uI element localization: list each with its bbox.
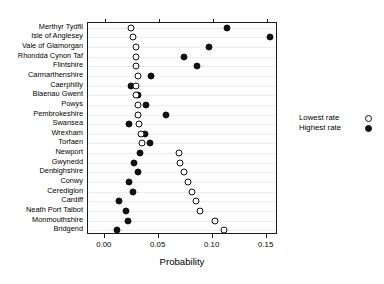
- x-axis-tick-label: 0.15: [258, 240, 273, 249]
- y-axis-tick-label: Torfaen: [58, 138, 83, 146]
- chart-root: Merthyr TydfilIsle of AngleseyVale of Gl…: [0, 0, 384, 284]
- y-axis-tick-label: Pembrokeshire: [33, 110, 83, 118]
- gridline: [88, 124, 276, 125]
- data-point-lowest-rate: [197, 207, 204, 214]
- data-point-lowest-rate: [133, 82, 140, 89]
- data-point-lowest-rate: [211, 217, 218, 224]
- data-point-lowest-rate: [138, 130, 145, 137]
- y-axis-tick-label: Blaenau Gwent: [32, 90, 83, 98]
- data-point-highest-rate: [162, 111, 169, 118]
- data-point-highest-rate: [124, 217, 131, 224]
- x-axis-title: Probability: [87, 256, 277, 267]
- data-point-lowest-rate: [132, 44, 139, 51]
- data-point-lowest-rate: [188, 188, 195, 195]
- gridline: [88, 192, 276, 193]
- y-axis-tick-label: Wrexham: [52, 129, 84, 137]
- data-point-lowest-rate: [134, 111, 141, 118]
- data-point-highest-rate: [130, 188, 137, 195]
- x-axis-tick-top: [105, 19, 106, 23]
- x-axis-tick: [104, 234, 105, 238]
- y-axis-tick-label: Vale of Glamorgan: [22, 42, 83, 50]
- data-point-highest-rate: [194, 63, 201, 70]
- data-point-highest-rate: [115, 198, 122, 205]
- y-axis-tick-label: Newport: [55, 148, 83, 156]
- plot-frame: [87, 22, 277, 234]
- data-point-lowest-rate: [134, 73, 141, 80]
- gridline: [88, 95, 276, 96]
- legend-label-highest-rate: Highest rate: [299, 123, 341, 132]
- data-point-highest-rate: [135, 169, 142, 176]
- data-point-lowest-rate: [133, 92, 140, 99]
- y-axis-tick-label: Caerphilly: [50, 81, 83, 89]
- y-axis-tick-label: Isle of Anglesey: [31, 32, 83, 40]
- gridline: [88, 47, 276, 48]
- filled-circle-icon: [365, 125, 372, 132]
- data-point-lowest-rate: [184, 179, 191, 186]
- y-axis-tick-label: Cardiff: [61, 196, 83, 204]
- gridline: [88, 115, 276, 116]
- data-point-lowest-rate: [138, 140, 145, 147]
- y-axis-tick-label: Merthyr Tydfil: [39, 23, 83, 31]
- gridline: [88, 105, 276, 106]
- gridline: [88, 221, 276, 222]
- gridline: [88, 86, 276, 87]
- gridline: [88, 211, 276, 212]
- data-point-highest-rate: [143, 101, 150, 108]
- x-axis-tick-label: 0.05: [150, 240, 165, 249]
- data-point-highest-rate: [113, 227, 120, 234]
- legend-item-lowest-rate: Lowest rate: [299, 113, 377, 123]
- y-axis-tick-label: Gwynedd: [52, 158, 83, 166]
- x-axis: 0.000.050.100.15: [87, 234, 277, 258]
- data-point-lowest-rate: [135, 121, 142, 128]
- legend-item-highest-rate: Highest rate: [299, 123, 377, 133]
- y-axis-tick-label: Powys: [61, 100, 83, 108]
- data-point-highest-rate: [122, 207, 129, 214]
- data-point-highest-rate: [147, 140, 154, 147]
- y-axis-labels: Merthyr TydfilIsle of AngleseyVale of Gl…: [0, 22, 83, 234]
- data-point-lowest-rate: [130, 34, 137, 41]
- gridline: [88, 76, 276, 77]
- data-point-lowest-rate: [128, 24, 135, 31]
- y-axis-tick-label: Flintshire: [53, 61, 83, 69]
- x-axis-tick: [212, 234, 213, 238]
- chart-legend: Lowest rate Highest rate: [299, 113, 377, 133]
- data-point-lowest-rate: [192, 198, 199, 205]
- data-point-highest-rate: [205, 44, 212, 51]
- data-point-lowest-rate: [132, 63, 139, 70]
- data-point-lowest-rate: [132, 53, 139, 60]
- plot-area: [88, 23, 276, 233]
- x-axis-tick: [266, 234, 267, 238]
- data-point-lowest-rate: [180, 169, 187, 176]
- data-point-highest-rate: [126, 121, 133, 128]
- y-axis-tick-label: Carmarthenshire: [28, 71, 83, 79]
- y-axis-tick-label: Swansea: [53, 119, 83, 127]
- data-point-highest-rate: [266, 34, 273, 41]
- y-axis-tick-label: Ceredigion: [47, 187, 83, 195]
- legend-label-lowest-rate: Lowest rate: [299, 113, 339, 122]
- x-axis-tick: [158, 234, 159, 238]
- data-point-highest-rate: [131, 159, 138, 166]
- gridline: [88, 28, 276, 29]
- y-axis-tick-label: Rhondda Cynon Taf: [18, 52, 83, 60]
- data-point-highest-rate: [137, 150, 144, 157]
- data-point-highest-rate: [180, 53, 187, 60]
- data-point-lowest-rate: [134, 101, 141, 108]
- y-axis-tick-label: Denbighshire: [39, 167, 83, 175]
- gridline: [88, 37, 276, 38]
- y-axis-tick-label: Neath Port Talbot: [26, 206, 83, 214]
- gridline: [88, 134, 276, 135]
- gridline: [88, 66, 276, 67]
- y-axis-tick-label: Conwy: [60, 177, 83, 185]
- data-point-highest-rate: [147, 73, 154, 80]
- data-point-lowest-rate: [221, 227, 228, 234]
- gridline: [88, 143, 276, 144]
- x-axis-tick-top: [159, 19, 160, 23]
- gridline: [88, 182, 276, 183]
- x-axis-tick-label: 0.10: [204, 240, 219, 249]
- y-axis-tick-label: Monmouthshire: [32, 216, 83, 224]
- data-point-lowest-rate: [177, 159, 184, 166]
- y-axis-tick-label: Bridgend: [53, 225, 83, 233]
- x-axis-tick-top: [267, 19, 268, 23]
- x-axis-tick-top: [213, 19, 214, 23]
- data-point-lowest-rate: [175, 150, 182, 157]
